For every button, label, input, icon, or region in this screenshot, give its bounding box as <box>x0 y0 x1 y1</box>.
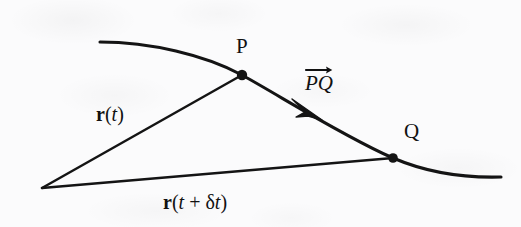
r-t-bold-r: r <box>96 103 105 125</box>
r-tdt-close-paren: ) <box>220 191 227 213</box>
vector-r-t-delta-t-line <box>42 158 393 188</box>
point-q-marker <box>388 153 398 163</box>
vector-r-t-label: r(t) <box>96 104 124 124</box>
r-t-open-paren: ( <box>105 103 112 125</box>
vector-pq-letter-q: Q <box>318 71 333 95</box>
r-tdt-bold-r: r <box>163 191 172 213</box>
point-p-marker <box>237 70 247 80</box>
point-q-label: Q <box>404 121 419 142</box>
diagram-canvas <box>0 0 521 227</box>
r-tdt-open-paren: ( <box>172 191 179 213</box>
trajectory-curve <box>100 42 501 177</box>
vector-r-t-delta-t-label: r(t + δt) <box>163 192 227 212</box>
r-t-close-paren: ) <box>117 103 124 125</box>
pq-arrowhead-icon <box>292 99 322 120</box>
vector-r-t-line <box>42 75 242 188</box>
vector-diagram-figure: P Q PQ r(t) r(t + δt) <box>0 0 521 227</box>
point-p-label: P <box>236 36 248 57</box>
r-tdt-delta-symbol: δ <box>205 191 214 213</box>
vector-pq-letter-p: P <box>305 71 318 95</box>
r-tdt-plus-sign: + <box>184 191 205 213</box>
vector-pq-label: PQ <box>305 73 333 94</box>
